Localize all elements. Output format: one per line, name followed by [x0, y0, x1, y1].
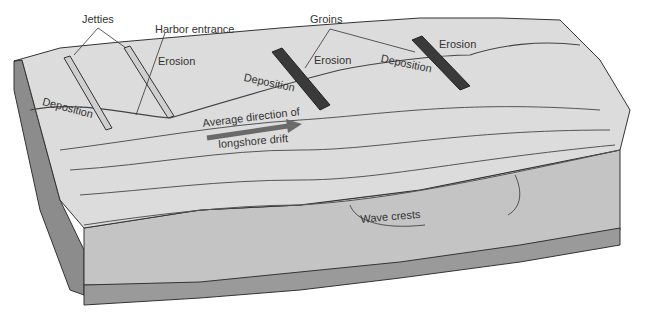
label-erosion-3: Erosion: [439, 39, 476, 50]
label-erosion-2: Erosion: [314, 55, 351, 66]
label-groins: Groins: [310, 14, 342, 25]
label-erosion-1: Erosion: [158, 56, 195, 67]
diagram-canvas: [0, 0, 645, 313]
label-harbor-entrance: Harbor entrance: [155, 24, 235, 35]
label-jetties: Jetties: [82, 14, 114, 25]
